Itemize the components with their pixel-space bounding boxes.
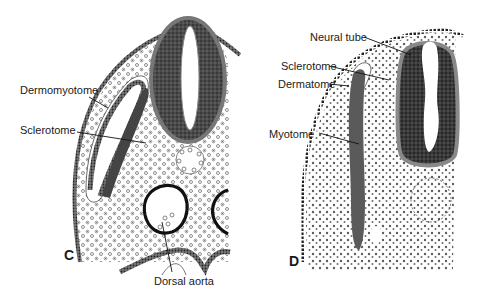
label-sclerotome: Sclerotome (20, 124, 76, 136)
label-dorsal-aorta: Dorsal aorta (154, 275, 214, 287)
panel-label-c: C (64, 248, 74, 262)
label-myotome: Myotome (269, 128, 314, 140)
label-neural-tube: Neural tube (310, 31, 367, 43)
panel-label-d: D (289, 254, 299, 268)
label-dermomyotome: Dermomyotome (20, 84, 98, 96)
label-dermatome: Dermatome (278, 78, 335, 90)
panel-c-drawing (0, 0, 241, 297)
panel-c: Dermomyotome Sclerotome Dorsal aorta C (0, 0, 241, 297)
label-sclerotome: Sclerotome (281, 60, 337, 72)
panel-d-drawing (241, 0, 482, 297)
panel-d: Neural tube Sclerotome Dermatome Myotome… (241, 0, 482, 297)
